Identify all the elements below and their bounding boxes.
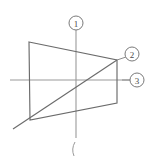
leader-line-marker-2	[117, 57, 126, 60]
callout-marker-3: 3	[130, 73, 144, 87]
marker-label: 3	[135, 76, 140, 86]
quadrilateral-outline	[29, 42, 117, 120]
marker-label: 2	[130, 50, 135, 60]
callout-marker-1: 1	[69, 16, 83, 30]
callout-marker-2: 2	[125, 47, 139, 61]
bottom-paren-mark	[73, 142, 75, 156]
marker-label: 1	[74, 19, 79, 29]
figure-canvas: 1 2 3	[0, 0, 156, 157]
diagonal-line	[13, 60, 117, 129]
geometric-figure: 1 2 3	[0, 0, 156, 157]
